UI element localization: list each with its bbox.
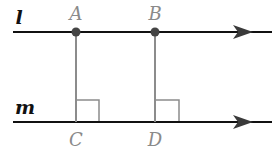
point-b-dot bbox=[151, 28, 160, 37]
point-a-label: A bbox=[68, 3, 83, 24]
point-b-label: B bbox=[147, 3, 161, 24]
point-d-label: D bbox=[147, 129, 163, 150]
line-l-label: l bbox=[15, 6, 22, 28]
point-a-dot bbox=[72, 28, 81, 37]
right-angle-mark-c-icon bbox=[77, 100, 99, 121]
diagram-canvas: l A B m C D bbox=[0, 0, 278, 155]
point-c-label: C bbox=[69, 129, 83, 150]
line-m-label: m bbox=[15, 96, 35, 118]
right-angle-mark-d-icon bbox=[156, 100, 179, 121]
